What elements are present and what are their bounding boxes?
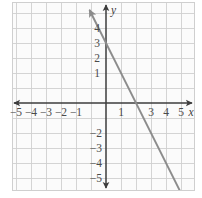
- graph-canvas: −5 −4 −3 −2 −1 1 3 4 5 4 3 2 1 −2 −3 −4 …: [0, 0, 202, 198]
- x-tick-label-neg5: −5: [10, 106, 22, 118]
- y-tick-label-neg4: −4: [90, 157, 102, 169]
- y-tick-label-4: 4: [94, 22, 100, 34]
- y-axis-label: y: [110, 4, 117, 17]
- x-tick-label-1: 1: [118, 106, 124, 118]
- x-tick-label-neg3: −3: [40, 106, 52, 118]
- x-tick-label-4: 4: [163, 106, 169, 118]
- x-axis-label: x: [187, 106, 194, 118]
- x-tick-label-neg4: −4: [25, 106, 37, 118]
- y-tick-label-3: 3: [94, 37, 100, 49]
- y-tick-label-2: 2: [94, 52, 100, 64]
- x-tick-label-3: 3: [148, 106, 154, 118]
- x-tick-label-neg1: −1: [70, 106, 82, 118]
- coordinate-plane-figure: −5 −4 −3 −2 −1 1 3 4 5 4 3 2 1 −2 −3 −4 …: [0, 0, 202, 198]
- y-tick-label-1: 1: [94, 67, 100, 79]
- y-tick-label-neg2: −2: [90, 127, 102, 139]
- x-tick-labels-negative: −5 −4 −3 −2 −1: [10, 106, 82, 118]
- y-tick-label-neg5: −5: [90, 172, 102, 184]
- x-tick-label-5: 5: [178, 106, 184, 118]
- grid-panel-background: [12, 2, 194, 190]
- x-tick-label-neg2: −2: [55, 106, 67, 118]
- y-tick-label-neg3: −3: [90, 142, 102, 154]
